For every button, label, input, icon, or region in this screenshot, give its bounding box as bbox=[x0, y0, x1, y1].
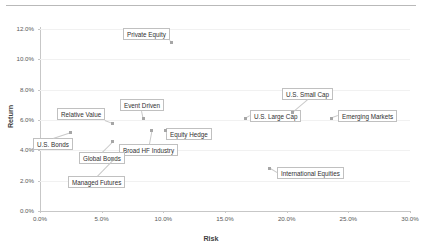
data-point-marker[interactable] bbox=[150, 129, 153, 132]
x-axis-title: Risk bbox=[0, 234, 422, 243]
y-axis-tick-mark bbox=[38, 90, 40, 91]
scatter-chart: Return Risk 0.0%2.0%4.0%6.0%8.0%10.0%12.… bbox=[0, 0, 422, 250]
y-axis-tick-label: 2.0% bbox=[2, 177, 34, 184]
data-point-label[interactable]: Event Driven bbox=[120, 99, 164, 111]
data-point-marker[interactable] bbox=[111, 140, 114, 143]
data-point-marker[interactable] bbox=[142, 117, 145, 120]
y-axis-tick-mark bbox=[38, 181, 40, 182]
x-axis-tick-mark bbox=[163, 211, 164, 213]
gridline-y bbox=[40, 90, 410, 91]
y-axis-tick-mark bbox=[38, 120, 40, 121]
data-point-marker[interactable] bbox=[164, 129, 167, 132]
data-point-marker[interactable] bbox=[330, 117, 333, 120]
data-point-marker[interactable] bbox=[244, 117, 247, 120]
x-axis-tick-mark bbox=[348, 211, 349, 213]
x-axis-tick-label: 10.0% bbox=[143, 215, 183, 222]
data-point-label[interactable]: Broad HF Industry bbox=[119, 144, 178, 156]
x-axis-tick-label: 25.0% bbox=[328, 215, 368, 222]
x-axis-tick-mark bbox=[287, 211, 288, 213]
x-axis-tick-label: 5.0% bbox=[82, 215, 122, 222]
header-divider bbox=[6, 5, 416, 6]
data-point-marker[interactable] bbox=[268, 167, 271, 170]
data-point-marker[interactable] bbox=[170, 41, 173, 44]
y-axis-tick-mark bbox=[38, 150, 40, 151]
y-axis-tick-mark bbox=[38, 59, 40, 60]
data-point-label[interactable]: U.S. Bonds bbox=[33, 138, 73, 150]
x-axis-tick-mark bbox=[40, 211, 41, 213]
data-point-label[interactable]: Global Bonds bbox=[79, 152, 125, 164]
data-point-label[interactable]: Relative Value bbox=[57, 108, 105, 120]
data-point-marker[interactable] bbox=[111, 122, 114, 125]
y-axis-tick-label: 4.0% bbox=[2, 146, 34, 153]
y-axis-tick-label: 12.0% bbox=[2, 25, 34, 32]
y-axis-tick-mark bbox=[38, 29, 40, 30]
data-point-label[interactable]: International Equities bbox=[277, 167, 344, 179]
x-axis-tick-label: 20.0% bbox=[267, 215, 307, 222]
data-point-label[interactable]: Equity Hedge bbox=[166, 128, 212, 140]
y-axis-tick-label: 0.0% bbox=[2, 207, 34, 214]
x-axis-tick-mark bbox=[410, 211, 411, 213]
data-point-label[interactable]: Emerging Markets bbox=[338, 110, 397, 122]
data-point-label[interactable]: U.S. Small Cap bbox=[282, 88, 333, 100]
gridline-y bbox=[40, 59, 410, 60]
x-axis-tick-label: 30.0% bbox=[390, 215, 422, 222]
x-axis-tick-label: 15.0% bbox=[205, 215, 245, 222]
data-point-marker[interactable] bbox=[69, 131, 72, 134]
data-point-label[interactable]: Private Equity bbox=[123, 28, 170, 40]
x-axis-tick-label: 0.0% bbox=[20, 215, 60, 222]
gridline-y bbox=[40, 29, 410, 30]
y-axis-tick-label: 8.0% bbox=[2, 86, 34, 93]
data-point-label[interactable]: Managed Futures bbox=[68, 176, 125, 188]
y-axis-tick-label: 6.0% bbox=[2, 116, 34, 123]
x-axis-tick-mark bbox=[225, 211, 226, 213]
x-axis-tick-mark bbox=[102, 211, 103, 213]
data-point-marker[interactable] bbox=[111, 158, 114, 161]
y-axis-tick-label: 10.0% bbox=[2, 55, 34, 62]
data-point-marker[interactable] bbox=[291, 111, 294, 114]
